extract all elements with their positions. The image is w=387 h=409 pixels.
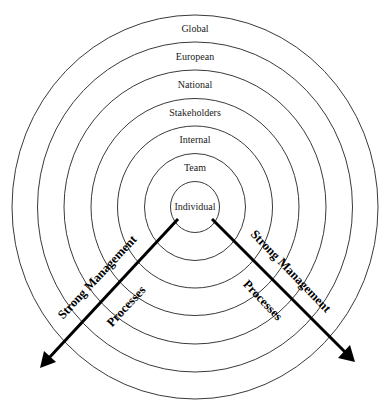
- label-national: National: [178, 79, 213, 90]
- label-global: Global: [181, 23, 208, 34]
- label-individual: Individual: [174, 201, 215, 212]
- arrow-right-shaft: [212, 219, 347, 354]
- label-european: European: [176, 51, 214, 62]
- label-internal: Internal: [179, 134, 210, 145]
- label-stakeholders: Stakeholders: [169, 107, 221, 118]
- ring-labels: Global European National Stakeholders In…: [169, 23, 221, 212]
- concentric-management-diagram: Global European National Stakeholders In…: [0, 0, 387, 409]
- label-team: Team: [184, 162, 206, 173]
- arrow-right: [212, 219, 355, 362]
